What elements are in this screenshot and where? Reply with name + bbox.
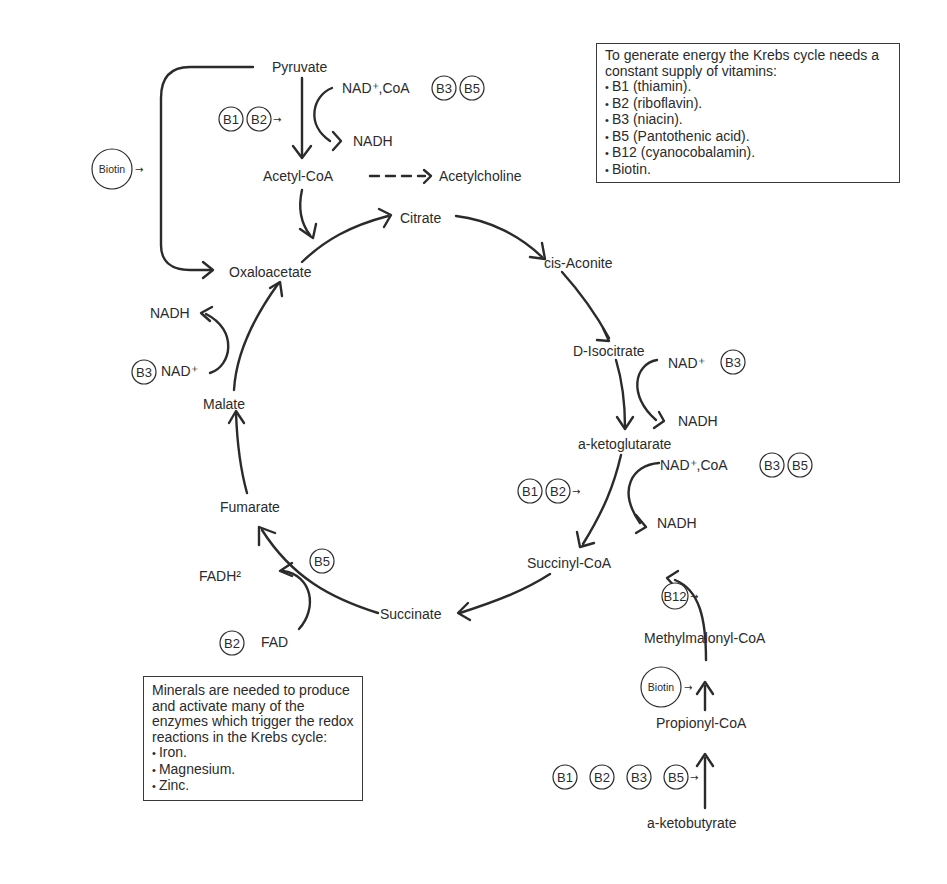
vitamin-list-item: B1 (thiamin).: [605, 79, 893, 96]
badge-b5-ketobutyrate: B5: [664, 765, 688, 789]
small-arrow-icon: →: [690, 591, 698, 602]
badge-b5-ketoglutarate: B5: [788, 453, 812, 477]
svg-text:B5: B5: [792, 458, 808, 473]
vitamin-list-item: B3 (niacin).: [605, 112, 893, 129]
label-acetyl-coa: Acetyl-CoA: [263, 168, 334, 184]
svg-text:B5: B5: [668, 770, 684, 785]
cofactor-pyruvate-in: NAD⁺,CoA: [342, 80, 410, 96]
badge-b3-ketobutyrate: B3: [627, 765, 651, 789]
badge-b2-succinate: B2: [220, 631, 244, 655]
badge-b1-ketobutyrate: B1: [553, 765, 577, 789]
mineral-info-box: Minerals are needed to produce and activ…: [143, 676, 363, 801]
svg-text:B2: B2: [251, 112, 267, 127]
citrate-to-cis-aconite-arrow: [456, 216, 545, 259]
badge-b12-methylmalonyl: B12: [662, 583, 688, 609]
label-pyruvate: Pyruvate: [272, 59, 327, 75]
acetyl-coa-to-acetylcholine-arrow: [370, 170, 431, 183]
svg-text:B5: B5: [314, 554, 330, 569]
cofactor-succinate-in: FAD: [261, 634, 288, 650]
pyruvate-nad-curl-arrow: [314, 88, 341, 150]
vitamin-list-item: B5 (Pantothenic acid).: [605, 129, 893, 146]
cofactor-malate-out: NADH: [150, 305, 190, 321]
small-arrow-icon: →: [684, 682, 692, 693]
badge-b3-ketoglutarate: B3: [760, 453, 784, 477]
small-arrow-icon: →: [273, 114, 281, 125]
svg-text:B3: B3: [136, 365, 152, 380]
mineral-list-item: Zinc.: [152, 778, 356, 795]
cis-aconite-to-isocitrate-arrow: [562, 272, 609, 341]
label-acetylcholine: Acetylcholine: [439, 168, 522, 184]
succinyl-coa-to-succinate-arrow: [458, 574, 550, 620]
label-fumarate: Fumarate: [220, 499, 280, 515]
small-arrow-icon: →: [572, 486, 580, 497]
malate-to-oxaloacetate-arrow: [234, 282, 282, 390]
svg-text:B3: B3: [631, 770, 647, 785]
malate-nad-curl-arrow: [201, 307, 228, 373]
vitamin-info-box: To generate energy the Krebs cycle needs…: [596, 43, 900, 183]
oxaloacetate-to-citrate-arrow: [302, 209, 391, 262]
ketoglutarate-nad-curl-arrow: [629, 463, 659, 533]
cofactor-pyruvate-out: NADH: [353, 133, 393, 149]
vitamin-list: B1 (thiamin). B2 (riboflavin). B3 (niaci…: [605, 79, 893, 178]
svg-text:Biotin: Biotin: [648, 681, 674, 693]
badge-b3-pyruvate: B3: [432, 76, 456, 100]
label-propionyl-coa: Propionyl-CoA: [656, 715, 747, 731]
cofactor-ketoglutarate-out: NADH: [657, 515, 697, 531]
svg-text:B2: B2: [550, 484, 566, 499]
cofactor-isocitrate-out: NADH: [678, 413, 718, 429]
svg-text:B5: B5: [464, 81, 480, 96]
svg-text:B12: B12: [663, 589, 686, 604]
small-arrow-icon: →: [690, 772, 698, 783]
vitamin-list-item: Biotin.: [605, 162, 893, 179]
acetyl-coa-to-citrate-arrow: [300, 190, 316, 238]
isocitrate-nad-curl-arrow: [637, 360, 664, 428]
cofactor-malate-in: NAD⁺: [161, 363, 198, 379]
ketoglutarate-to-succinyl-coa-arrow: [577, 455, 621, 547]
svg-text:B2: B2: [224, 636, 240, 651]
badge-b2-ketobutyrate: B2: [590, 765, 614, 789]
badge-b5-succinate: B5: [310, 549, 334, 573]
label-oxaloacetate: Oxaloacetate: [229, 264, 312, 280]
cofactor-isocitrate-in: NAD⁺: [668, 355, 705, 371]
small-arrow-icon: →: [135, 164, 143, 175]
badge-b1-pyruvate: B1: [219, 107, 243, 131]
label-succinyl-coa: Succinyl-CoA: [527, 555, 612, 571]
propionyl-to-methylmalonyl-arrow: [697, 682, 713, 710]
svg-text:B3: B3: [725, 355, 741, 370]
label-a-ketobutyrate: a-ketobutyrate: [647, 815, 737, 831]
label-malate: Malate: [203, 396, 245, 412]
badge-b3-malate: B3: [132, 360, 156, 384]
vitamin-list-item: B12 (cyanocobalamin).: [605, 145, 893, 162]
mineral-list-item: Iron.: [152, 745, 356, 762]
label-a-ketoglutarate: a-ketoglutarate: [578, 436, 672, 452]
svg-text:B3: B3: [764, 458, 780, 473]
badge-b5-pyruvate: B5: [460, 76, 484, 100]
fumarate-to-malate-arrow: [229, 411, 247, 493]
label-methylmalonyl-coa: Methylmalonyl-CoA: [644, 630, 766, 646]
svg-text:B3: B3: [436, 81, 452, 96]
succinate-fad-curl-arrow: [280, 563, 310, 629]
cofactor-ketoglutarate-in: NAD⁺,CoA: [660, 457, 728, 473]
mineral-box-intro: Minerals are needed to produce and activ…: [152, 683, 356, 745]
mineral-list-item: Magnesium.: [152, 762, 356, 779]
label-d-isocitrate: D-Isocitrate: [573, 343, 645, 359]
badge-biotin-pyruvate-carboxylase: Biotin: [92, 149, 132, 189]
pyruvate-to-acetyl-coa-arrow: [293, 78, 311, 158]
badge-b1-ketoglutarate: B1: [518, 479, 542, 503]
label-cis-aconite: cis-Aconite: [544, 255, 613, 271]
svg-text:B1: B1: [522, 484, 538, 499]
label-succinate: Succinate: [380, 606, 442, 622]
svg-text:Biotin: Biotin: [99, 163, 125, 175]
svg-text:B1: B1: [557, 770, 573, 785]
svg-text:B2: B2: [594, 770, 610, 785]
badge-b2-pyruvate: B2: [247, 107, 271, 131]
label-citrate: Citrate: [400, 210, 441, 226]
ketobutyrate-to-propionyl-arrow: [697, 754, 713, 808]
cofactor-succinate-out: FADH²: [199, 568, 241, 584]
mineral-list: Iron. Magnesium. Zinc.: [152, 745, 356, 795]
badge-biotin-propionyl: Biotin: [641, 667, 681, 707]
svg-text:B1: B1: [223, 112, 239, 127]
vitamin-list-item: B2 (riboflavin).: [605, 96, 893, 113]
badge-b2-ketoglutarate: B2: [546, 479, 570, 503]
badge-b3-isocitrate: B3: [721, 350, 745, 374]
